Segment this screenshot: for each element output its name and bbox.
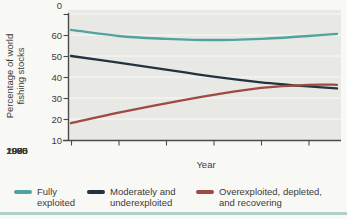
bottom-rule [0,212,347,215]
y-axis-title: Percentage of world fishing stocks [4,6,28,146]
legend-label-line: Overexploited, depleted, [219,186,322,197]
y-tick-label-10: 10 [38,135,62,146]
legend-label-fully-exploited: Fully exploited [37,186,75,208]
legend-label-line: Moderately and [110,186,175,197]
legend-label-moderately-underexploited: Moderately and underexploited [110,186,175,208]
legend-item-moderately-underexploited: Moderately and underexploited [87,186,175,208]
x-tick-label-2000: 2000 [0,145,34,156]
legend-label-line: underexploited [110,197,175,208]
x-axis-title: Year [186,159,226,170]
y-tick-label-40: 40 [38,72,62,83]
y-axis-title-line2: fishing stocks [15,6,26,146]
y-tick-label-50: 50 [38,51,62,62]
legend-label-line: Fully [37,186,75,197]
y-tick-label-0: 0 [38,0,62,11]
legend-label-overexploited-depleted: Overexploited, depleted, and recovering [219,186,322,208]
legend: Fully exploited Moderately and underexpl… [0,186,347,212]
legend-item-fully-exploited: Fully exploited [14,186,75,208]
y-tick-label-20: 20 [38,114,62,125]
legend-label-line: and recovering [219,197,322,208]
legend-swatch-moderately-underexploited [87,190,105,194]
legend-swatch-fully-exploited [14,190,32,194]
legend-item-overexploited-depleted: Overexploited, depleted, and recovering [196,186,322,208]
legend-label-line: exploited [37,197,75,208]
y-axis-title-line1: Percentage of world [4,6,15,146]
fishing-stocks-chart: Percentage of world fishing stocks 60 50… [0,0,347,219]
y-tick-label-60: 60 [38,30,62,41]
legend-swatch-overexploited-depleted [196,190,214,194]
y-tick-label-30: 30 [38,93,62,104]
